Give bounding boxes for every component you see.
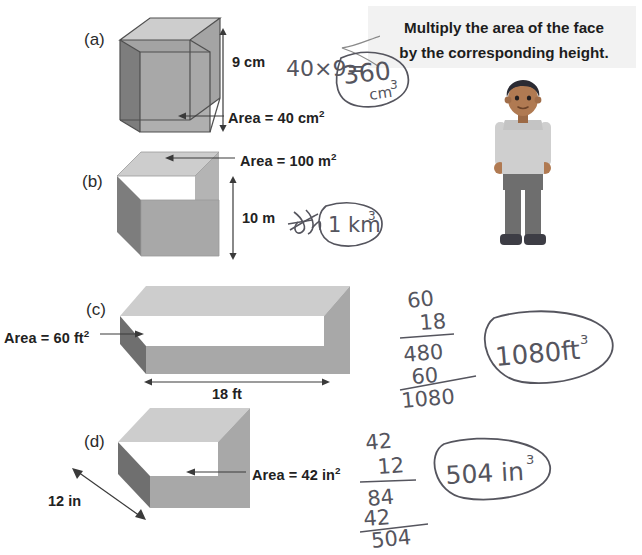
problem-letter-a: (a) [84,30,105,50]
handwriting-d: 42 12 84 42 504 504 in 3 [358,428,568,552]
handwriting-c-answer: 1080ft [494,335,581,372]
handwriting-b: 1 km 3 [286,198,406,262]
handwriting-a: 40×9= 360 cm 3 [286,48,416,118]
student-character-illustration [487,78,559,250]
handwriting-d-rule-1 [360,480,416,482]
figure-a-area-arrow [178,110,226,122]
figure-c-area-label: Area = 60 ft2 [4,328,89,346]
handwriting-d-answer: 504 in [445,457,525,490]
handwriting-d-multiplier: 12 [377,453,405,479]
figure-a-height-label: 9 cm [232,54,265,70]
figure-d-area-arrow [186,466,248,478]
handwriting-c: 60 18 480 60 1080 1080ft 3 [398,288,628,412]
problem-letter-c: (c) [86,300,106,320]
speech-bubble-text: Multiply the area of the face by the cor… [382,15,626,65]
handwriting-d-multiplicand: 42 [364,429,393,455]
figure-b-height-dimension-arrow [226,176,240,260]
handwriting-c-rule-1 [400,334,454,338]
handwriting-c-answer-exponent: 3 [580,332,588,347]
figure-c-wide-prism [118,282,352,382]
handwriting-b-scribble [288,210,321,234]
problem-letter-d: (d) [84,432,105,452]
handwriting-c-multiplier: 18 [419,309,447,335]
handwriting-d-answer-exponent: 3 [526,452,534,467]
handwriting-a-answer-exponent: 3 [390,78,398,92]
figure-b-area-arrow [165,152,237,164]
figure-b-height-label: 10 m [242,210,275,226]
figure-d-depth-label: 12 in [48,493,81,509]
handwriting-c-multiplicand: 60 [406,286,435,313]
speech-bubble-line-1: Multiply the area of the face [404,19,604,36]
handwriting-c-partial-1: 480 [402,340,444,367]
figure-b-area-label: Area = 100 m2 [240,151,337,169]
problem-letter-b: (b) [82,172,103,192]
figure-c-area-arrow [100,328,144,340]
figure-d-area-label: Area = 42 in2 [252,465,341,483]
figure-c-length-label: 18 ft [212,386,242,402]
speech-bubble-line-2: by the corresponding height. [399,44,608,61]
